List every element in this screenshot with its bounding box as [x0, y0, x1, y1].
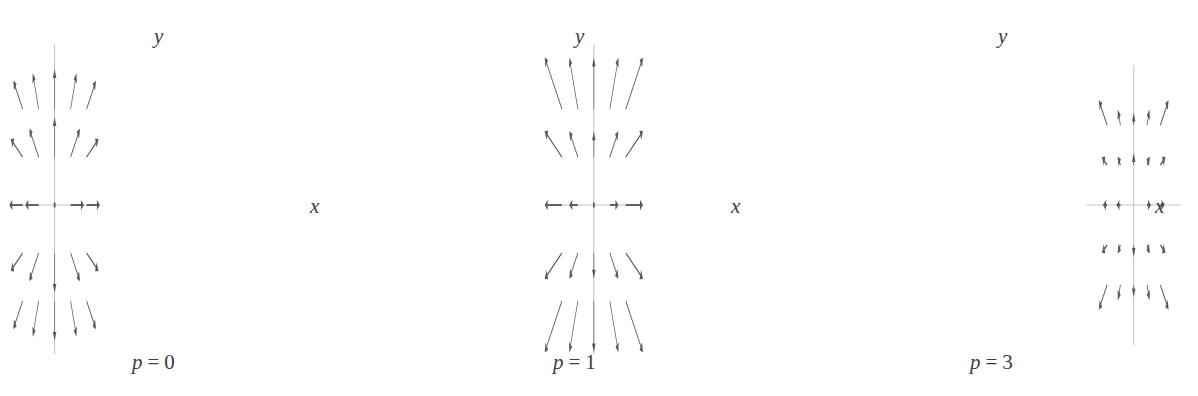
field-arrow-head	[53, 117, 56, 126]
vector-field-figure: xyp = 0xyp = 1xyp = 3	[0, 0, 1198, 396]
field-arrow-shaft	[547, 135, 562, 157]
field-arrow-shaft	[87, 253, 97, 267]
caption-equals: =	[981, 350, 1002, 374]
field-arrow-shaft	[1160, 245, 1163, 249]
caption-variable: p	[553, 350, 564, 374]
field-arrow-head	[640, 200, 643, 210]
caption-value: 0	[164, 350, 175, 374]
field-arrow-shaft	[34, 80, 39, 109]
field-arrow-head	[9, 200, 12, 210]
y-axis-label: y	[998, 26, 1007, 47]
x-axis-label: x	[310, 196, 319, 217]
origin-marker	[593, 202, 595, 207]
field-arrow-shaft	[610, 301, 617, 346]
field-arrow-shaft	[610, 137, 617, 157]
y-axis-label: y	[575, 26, 584, 47]
field-arrow-shaft	[1147, 285, 1148, 294]
field-arrow-head	[1147, 157, 1150, 167]
field-arrow-shaft	[87, 143, 97, 157]
field-arrow-head	[1118, 243, 1121, 253]
field-arrow-head	[615, 200, 618, 210]
field-arrow-shaft	[1119, 285, 1120, 294]
field-arrow-head	[1132, 153, 1135, 162]
field-arrow-shaft	[547, 63, 562, 109]
panel-caption: p = 3	[970, 352, 1013, 373]
field-arrow-head	[545, 200, 548, 210]
field-arrow-shaft	[1104, 245, 1107, 249]
vector-field-panel: xyp = 0	[0, 0, 399, 396]
field-arrow-head	[53, 284, 56, 293]
field-arrow-shaft	[610, 64, 617, 109]
field-arrow-shaft	[1119, 116, 1120, 125]
field-arrow-head	[592, 57, 595, 66]
field-arrow-shaft	[571, 253, 578, 273]
field-arrow-shaft	[1101, 106, 1107, 125]
x-axis-label: x	[1155, 196, 1164, 217]
field-arrow-head	[81, 200, 84, 210]
field-arrow-shaft	[15, 86, 23, 109]
field-arrow-shaft	[1101, 285, 1107, 304]
field-arrow-shaft	[626, 135, 641, 157]
caption-variable: p	[970, 350, 981, 374]
vector-field-panel: xyp = 3	[798, 0, 1197, 396]
x-axis-label: x	[731, 196, 740, 217]
y-axis-label: y	[154, 26, 163, 47]
field-arrow-shaft	[547, 253, 562, 275]
field-arrow-head	[1148, 200, 1151, 210]
caption-value: 1	[585, 350, 596, 374]
field-arrow-shaft	[610, 253, 617, 273]
field-arrow-shaft	[31, 253, 39, 276]
panel-caption: p = 0	[132, 352, 175, 373]
field-arrow-shaft	[626, 63, 641, 109]
caption-value: 3	[1002, 350, 1013, 374]
field-arrow-head	[53, 69, 56, 78]
field-arrow-head	[25, 200, 28, 210]
panel-caption: p = 1	[553, 352, 596, 373]
field-arrow-shaft	[15, 301, 23, 324]
field-arrow-head	[1132, 288, 1135, 297]
caption-equals: =	[143, 350, 164, 374]
field-arrow-shaft	[87, 86, 95, 109]
caption-equals: =	[564, 350, 585, 374]
field-arrow-shaft	[71, 80, 76, 109]
field-arrow-head	[569, 200, 572, 210]
field-arrow-shaft	[87, 301, 95, 324]
vector-field-canvas	[0, 0, 399, 396]
field-arrow-head	[1132, 113, 1135, 122]
field-arrow-shaft	[571, 137, 578, 157]
field-arrow-head	[97, 200, 100, 210]
field-arrow-shaft	[13, 143, 23, 157]
field-arrow-head	[1147, 243, 1150, 253]
field-arrow-shaft	[1160, 161, 1163, 165]
field-arrow-head	[592, 270, 595, 279]
field-arrow-head	[1118, 157, 1121, 167]
field-arrow-head	[592, 131, 595, 140]
field-arrow-shaft	[13, 253, 23, 267]
field-arrow-shaft	[1147, 116, 1148, 125]
field-arrow-shaft	[626, 253, 641, 275]
field-arrow-shaft	[570, 64, 577, 109]
field-arrow-shaft	[1160, 106, 1166, 125]
field-arrow-shaft	[71, 253, 79, 276]
field-arrow-head	[1116, 200, 1119, 210]
origin-marker	[54, 202, 56, 207]
field-arrow-shaft	[570, 301, 577, 346]
field-arrow-shaft	[1160, 285, 1166, 304]
field-arrow-head	[1103, 200, 1106, 210]
field-arrow-shaft	[31, 134, 39, 157]
vector-field-canvas	[798, 0, 1197, 396]
vector-field-panel: xyp = 1	[399, 0, 798, 396]
field-arrow-shaft	[71, 301, 76, 330]
field-arrow-shaft	[1104, 161, 1107, 165]
caption-variable: p	[132, 350, 143, 374]
field-arrow-shaft	[626, 301, 641, 347]
field-arrow-head	[1132, 248, 1135, 257]
field-arrow-head	[53, 332, 56, 341]
field-arrow-shaft	[71, 134, 79, 157]
field-arrow-shaft	[547, 301, 562, 347]
field-arrow-shaft	[34, 301, 39, 330]
